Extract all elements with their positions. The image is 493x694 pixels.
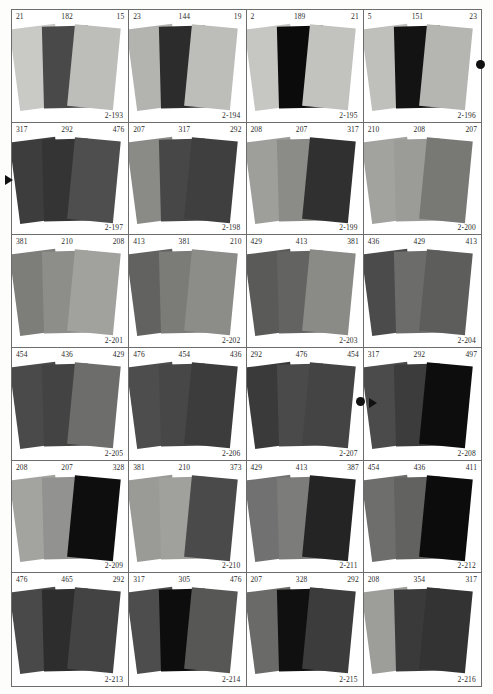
sample-cell[interactable]: 3172924972-208 xyxy=(364,348,481,461)
swatch-card[interactable] xyxy=(419,362,473,448)
swatch-card[interactable] xyxy=(67,137,121,223)
sample-number-right: 21 xyxy=(351,12,359,21)
sample-number-left: 207 xyxy=(133,125,145,134)
sample-number-middle: 210 xyxy=(145,463,230,472)
sample-cell[interactable]: 3173054762-214 xyxy=(129,573,246,686)
sample-chart-sheet: 21182152-19323144192-1942189212-19551512… xyxy=(0,0,493,694)
sample-number-right: 15 xyxy=(117,12,125,21)
sample-code-label: 2-195 xyxy=(339,111,358,120)
swatch-card[interactable] xyxy=(302,362,356,448)
swatch-card[interactable] xyxy=(184,24,238,110)
swatch-card[interactable] xyxy=(67,24,121,110)
sample-number-left: 208 xyxy=(251,125,263,134)
sample-cell[interactable]: 4294133812-203 xyxy=(247,235,364,348)
sample-cell[interactable]: 4544364292-205 xyxy=(12,348,129,461)
sample-cell[interactable]: 2189212-195 xyxy=(247,10,364,123)
sample-number-left: 317 xyxy=(368,350,380,359)
sample-cell[interactable]: 4364294132-204 xyxy=(364,235,481,348)
sample-number-middle: 476 xyxy=(262,350,347,359)
sample-code-label: 2-210 xyxy=(222,561,241,570)
swatch-card[interactable] xyxy=(302,137,356,223)
sample-code-label: 2-206 xyxy=(222,449,241,458)
swatch-card[interactable] xyxy=(419,250,473,336)
sample-cell[interactable]: 2083543172-216 xyxy=(364,573,481,686)
sample-number-right: 476 xyxy=(230,575,242,584)
sample-number-middle: 144 xyxy=(141,12,234,21)
swatch-stack xyxy=(12,22,128,111)
swatch-card[interactable] xyxy=(302,250,356,336)
swatch-stack xyxy=(364,135,481,224)
sample-cell[interactable]: 2073282922-215 xyxy=(247,573,364,686)
swatch-card[interactable] xyxy=(302,475,356,561)
swatch-card[interactable] xyxy=(302,24,356,110)
swatch-stack xyxy=(12,585,128,675)
sample-code-label: 2-211 xyxy=(340,561,358,570)
sample-number-middle: 436 xyxy=(28,350,113,359)
sample-number-middle: 413 xyxy=(262,237,347,246)
sample-number-left: 454 xyxy=(16,350,28,359)
sample-cell[interactable]: 2102082072-200 xyxy=(364,123,481,236)
swatch-card[interactable] xyxy=(419,137,473,223)
swatch-card[interactable] xyxy=(184,475,238,561)
swatch-card[interactable] xyxy=(184,250,238,336)
sample-number-middle: 429 xyxy=(379,237,465,246)
sample-number-middle: 305 xyxy=(145,575,230,584)
sample-code-label: 2-200 xyxy=(458,223,477,232)
sample-number-right: 317 xyxy=(465,575,477,584)
sample-code-label: 2-199 xyxy=(339,223,358,232)
swatch-card[interactable] xyxy=(184,137,238,223)
swatch-card[interactable] xyxy=(419,588,473,674)
sample-number-right: 387 xyxy=(347,463,359,472)
sample-number-right: 292 xyxy=(113,575,125,584)
sample-number-right: 292 xyxy=(347,575,359,584)
sample-code-label: 2-214 xyxy=(222,675,241,684)
sample-number-middle: 292 xyxy=(379,350,465,359)
swatch-card[interactable] xyxy=(184,362,238,448)
sample-cell[interactable]: 3812103732-210 xyxy=(129,461,246,574)
sample-number-left: 5 xyxy=(368,12,372,21)
sample-number-middle: 354 xyxy=(379,575,465,584)
marker-dot-row1-right-icon xyxy=(476,60,485,69)
sample-cell[interactable]: 4544364112-212 xyxy=(364,461,481,574)
sample-cell[interactable]: 2082073172-199 xyxy=(247,123,364,236)
sample-number-right: 476 xyxy=(113,125,125,134)
sample-number-middle: 292 xyxy=(28,125,113,134)
sample-cell[interactable]: 23144192-194 xyxy=(129,10,246,123)
sample-number-left: 207 xyxy=(251,575,263,584)
sample-number-right: 210 xyxy=(230,237,242,246)
sample-number-left: 413 xyxy=(133,237,145,246)
sample-number-right: 373 xyxy=(230,463,242,472)
sample-cell[interactable]: 4764652922-213 xyxy=(12,573,129,686)
swatch-stack xyxy=(247,247,363,336)
swatch-stack xyxy=(247,22,363,111)
swatch-card[interactable] xyxy=(302,588,356,674)
swatch-card[interactable] xyxy=(67,250,121,336)
sample-number-left: 381 xyxy=(16,237,28,246)
sample-number-middle: 208 xyxy=(379,125,465,134)
swatch-stack xyxy=(129,585,245,675)
swatch-stack xyxy=(247,585,363,675)
sample-cell[interactable]: 4133812102-202 xyxy=(129,235,246,348)
sample-cell[interactable]: 4294133872-211 xyxy=(247,461,364,574)
sample-number-right: 207 xyxy=(465,125,477,134)
swatch-card[interactable] xyxy=(184,588,238,674)
sample-cell[interactable]: 3812102082-201 xyxy=(12,235,129,348)
swatch-card[interactable] xyxy=(419,24,473,110)
sample-cell[interactable]: 4764544362-206 xyxy=(129,348,246,461)
sample-cell[interactable]: 2073172922-198 xyxy=(129,123,246,236)
sample-cell[interactable]: 5151232-196 xyxy=(364,10,481,123)
sample-number-middle: 151 xyxy=(372,12,470,21)
swatch-stack xyxy=(129,473,245,562)
sample-cell[interactable]: 21182152-193 xyxy=(12,10,129,123)
swatch-card[interactable] xyxy=(419,475,473,561)
sample-cell[interactable]: 2082073282-209 xyxy=(12,461,129,574)
sample-number-right: 497 xyxy=(465,350,477,359)
sample-number-right: 413 xyxy=(465,237,477,246)
sample-cell[interactable]: 3172924762-197 xyxy=(12,123,129,236)
swatch-stack xyxy=(247,360,363,449)
swatch-card[interactable] xyxy=(67,588,121,674)
sample-grid: 21182152-19323144192-1942189212-19551512… xyxy=(11,9,482,687)
swatch-card[interactable] xyxy=(67,475,121,561)
swatch-card[interactable] xyxy=(67,362,121,448)
sample-cell[interactable]: 2924764542-207 xyxy=(247,348,364,461)
